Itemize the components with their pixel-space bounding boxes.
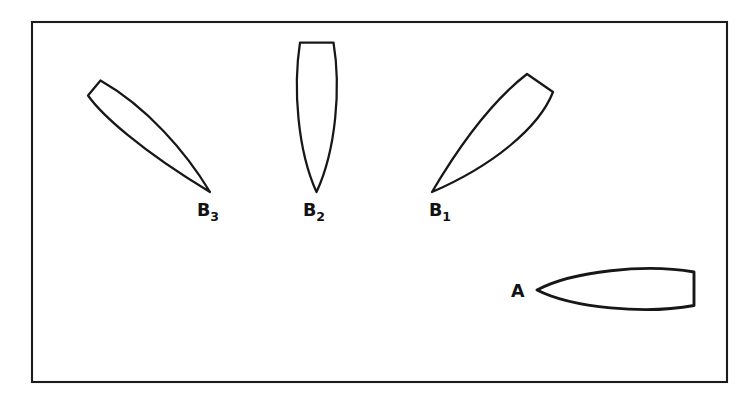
label-b2: B2 bbox=[303, 200, 325, 224]
shape-a-lens bbox=[537, 269, 694, 310]
label-b1-letter: B bbox=[429, 200, 442, 220]
line-drawing-figure: B3 B2 B1 A bbox=[0, 0, 753, 404]
label-b1: B1 bbox=[429, 200, 451, 224]
shape-b1-lens bbox=[432, 74, 553, 192]
figure-canvas: B3 B2 B1 A bbox=[0, 0, 753, 404]
figure-border-rectangle bbox=[32, 22, 727, 382]
shape-b3-lens bbox=[88, 81, 210, 193]
label-a: A bbox=[511, 281, 525, 301]
label-b1-subscript: 1 bbox=[442, 209, 451, 224]
label-a-letter: A bbox=[511, 281, 525, 301]
label-b3: B3 bbox=[197, 200, 219, 224]
label-b3-letter: B bbox=[197, 200, 210, 220]
shape-b2-lens bbox=[297, 43, 337, 193]
label-b2-letter: B bbox=[303, 200, 316, 220]
label-b3-subscript: 3 bbox=[210, 209, 219, 224]
label-b2-subscript: 2 bbox=[316, 209, 325, 224]
